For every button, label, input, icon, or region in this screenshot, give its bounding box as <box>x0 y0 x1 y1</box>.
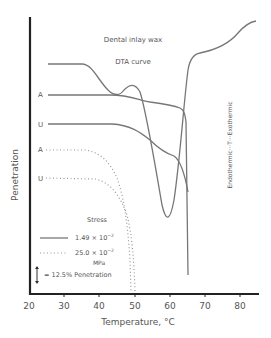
chart-subtitle: DTA curve <box>115 58 151 66</box>
curve-label-U-dotted: U <box>38 175 43 183</box>
legend: Stress 1.49 × 10−2 25.0 × 10−2 MPa = 12.… <box>35 216 114 284</box>
chart-title: Dental inlay wax <box>104 36 162 44</box>
tick-20: 20 <box>23 301 35 311</box>
tick-30: 30 <box>58 301 70 311</box>
tick-60: 60 <box>164 301 176 311</box>
curve-A-low-stress <box>48 95 188 275</box>
x-axis-label: Temperature, °C <box>100 317 175 327</box>
endo-exo-label: Endothermic···T···Exothermic <box>226 101 233 188</box>
chart: 20 30 40 50 60 70 80 Temperature, °C Pen… <box>0 0 271 338</box>
y-axis-label: Penetration <box>10 149 20 201</box>
dta-curve <box>48 21 256 217</box>
legend-title: Stress <box>87 216 108 224</box>
tick-50: 50 <box>129 301 141 311</box>
legend-scale-note: = 12.5% Penetration <box>44 271 112 279</box>
tick-70: 70 <box>199 301 211 311</box>
legend-dotted-label: 25.0 × 10−2 <box>75 248 114 257</box>
legend-solid-label: 1.49 × 10−2 <box>75 233 114 242</box>
legend-unit: MPa <box>93 259 106 266</box>
tick-80: 80 <box>234 301 246 311</box>
curve-label-A-dotted: A <box>38 146 43 154</box>
x-tick-labels: 20 30 40 50 60 70 80 <box>23 301 246 311</box>
curve-label-U-solid: U <box>38 121 43 129</box>
tick-40: 40 <box>93 301 105 311</box>
curve-label-A-solid: A <box>38 91 43 99</box>
scale-arrow-icon <box>35 266 39 284</box>
